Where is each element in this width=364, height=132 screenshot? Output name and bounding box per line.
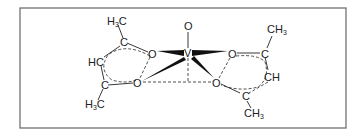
- right-bottom-oxygen: O: [212, 77, 221, 89]
- left-top-methyl: H3C: [107, 15, 127, 28]
- vanadyl-acetylacetonate-diagram: H3C C O HC C O H3C O V O C CH3 CH O C CH…: [0, 0, 364, 132]
- right-ring-delocalization: [219, 56, 268, 93]
- oxo-oxygen: O: [184, 20, 193, 32]
- right-bottom-methyl: CH3: [244, 107, 264, 120]
- vanadium-atom: V: [184, 47, 192, 59]
- right-top-oxygen: O: [228, 48, 237, 60]
- left-top-carbon: C: [120, 36, 128, 48]
- right-top-methyl: CH3: [267, 23, 287, 36]
- right-bottom-carbon: C: [242, 90, 250, 102]
- right-middle-ch: CH: [264, 71, 280, 83]
- left-bottom-oxygen: O: [133, 77, 142, 89]
- diagram-frame: [20, 8, 346, 128]
- right-top-carbon: C: [261, 48, 269, 60]
- left-top-oxygen: O: [148, 48, 157, 60]
- left-bottom-methyl: H3C: [85, 98, 105, 111]
- left-middle-ch: HC: [88, 56, 104, 68]
- left-bottom-carbon: C: [101, 79, 109, 91]
- left-ring-delocalization: [104, 49, 150, 82]
